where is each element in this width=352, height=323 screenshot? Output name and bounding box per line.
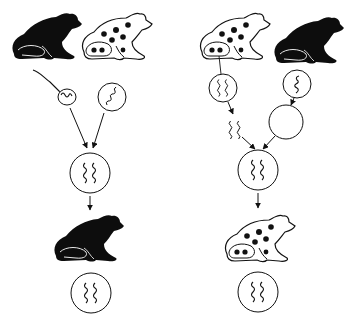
arrow-egg-to-enucleated [291,98,294,105]
arrow-sperm-to-zygote [70,108,87,148]
spotted-frog-offspring-icon [225,215,295,261]
black-frog-offspring-icon [54,215,124,261]
enucleated-egg-icon [269,105,303,139]
sperm-icon [33,70,76,105]
offspring-nucleus-icon [71,273,111,313]
arrow-chromosomes-to-zygote [242,137,255,149]
arrow-enucleated-to-zygote [263,136,275,149]
right-panel [200,13,344,312]
black-frog-egg-nucleus-icon [283,70,311,98]
zygote-nucleus-icon [70,153,110,193]
free-chromosomes-icon [229,121,240,139]
offspring-nucleus-icon [238,272,278,312]
arrow-egg-to-zygote [93,113,104,148]
black-frog-parent-icon [274,17,344,63]
egg-nucleus-icon [98,83,126,111]
donor-nucleus-icon [209,74,237,102]
spotted-frog-parent-icon [82,13,152,59]
spotted-frog-parent-icon [200,13,270,59]
left-panel [12,13,152,313]
diagram: Nuclear transplantation in frogs (recipr… [0,0,352,323]
black-frog-parent-icon [12,13,82,59]
zygote-nucleus-icon [238,150,278,190]
arrow-nucleus-to-chromosomes [228,102,233,114]
